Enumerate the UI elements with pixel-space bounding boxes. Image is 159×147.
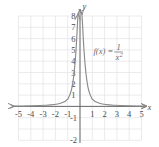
y-tick-label: 7 xyxy=(71,22,75,32)
x-tick-label: 2 xyxy=(102,109,106,119)
axes xyxy=(14,10,147,144)
function-label-lhs: f(x) = xyxy=(94,46,114,56)
y-axis-label: y xyxy=(82,1,87,11)
y-tick-label: 5 xyxy=(71,45,75,55)
x-tick-label: 5 xyxy=(139,109,143,119)
y-tick-label: 8 xyxy=(71,11,75,21)
y-tick-label: -1 xyxy=(70,113,77,123)
x-tick-label: 4 xyxy=(127,109,132,119)
function-label-exponent: 2 xyxy=(120,52,123,58)
curve-right-branch xyxy=(82,14,146,106)
function-label: f(x) = 1 x 2 xyxy=(94,42,123,62)
x-tick-label: -2 xyxy=(52,109,59,119)
x-tick-labels: -5 -4 -3 -2 -1 1 2 3 4 5 xyxy=(15,109,144,119)
x-tick-label: -3 xyxy=(40,109,47,119)
y-tick-label: -2 xyxy=(70,135,77,145)
coordinate-plane: x y -5 -4 -3 -2 -1 1 2 3 4 5 8 7 6 5 4 3… xyxy=(0,0,159,147)
function-label-numerator: 1 xyxy=(116,42,120,52)
x-tick-label: 1 xyxy=(90,109,94,119)
x-tick-label: 3 xyxy=(115,109,119,119)
y-tick-label: 1 xyxy=(71,90,75,100)
function-label-denominator: x xyxy=(114,52,119,62)
curve-left-branch xyxy=(14,14,79,106)
x-axis-label: x xyxy=(147,102,152,112)
y-tick-label: 6 xyxy=(71,34,75,44)
graph-figure: x y -5 -4 -3 -2 -1 1 2 3 4 5 8 7 6 5 4 3… xyxy=(0,0,159,147)
x-tick-label: -4 xyxy=(27,109,35,119)
x-tick-label: -5 xyxy=(15,109,22,119)
